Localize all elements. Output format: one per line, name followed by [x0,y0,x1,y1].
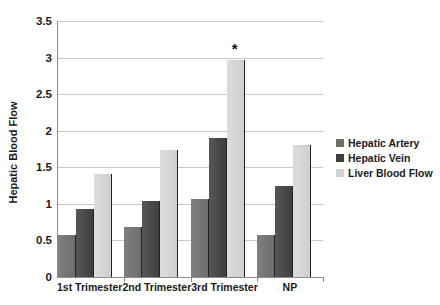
bar[interactable] [275,186,293,277]
bar-slot [58,21,76,277]
significance-asterisk: * [232,41,238,56]
bar[interactable] [124,227,142,277]
x-axis-tick-labels: 1st Trimester2nd Trimester3rd TrimesterN… [57,281,322,301]
legend-swatch-icon [336,154,344,162]
x-tick-mark [323,277,324,282]
bar[interactable]: * [227,60,245,277]
y-tick-label: 1 [14,198,52,210]
legend-swatch-icon [336,139,344,147]
bar-group [124,21,190,277]
y-tick-label: 3.5 [14,15,52,27]
bar-groups: * [58,21,323,277]
legend-item[interactable]: Hepatic Artery [336,136,440,150]
bar-slot [209,21,227,277]
bar-group [58,21,124,277]
y-tick-label: 2.5 [14,88,52,100]
y-tick-label: 0.5 [14,234,52,246]
x-tick-label: 1st Trimester [57,281,122,301]
bar-group: * [191,21,257,277]
bar-group [257,21,323,277]
bar-slot [160,21,178,277]
bar[interactable] [293,145,311,277]
legend-label: Hepatic Vein [348,152,410,164]
bar-slot [293,21,311,277]
plot-area: * [57,21,323,278]
bar[interactable] [257,235,275,277]
bar[interactable] [160,150,178,277]
bar-slot [124,21,142,277]
y-tick-label: 3 [14,52,52,64]
bar[interactable] [191,199,209,277]
bar[interactable] [209,138,227,277]
bar[interactable] [142,201,160,277]
bar[interactable] [58,235,76,277]
bar-slot [76,21,94,277]
bar-slot [257,21,275,277]
bar-slot [191,21,209,277]
bar-slot [275,21,293,277]
x-tick-label: 3rd Trimester [191,281,258,301]
legend: Hepatic ArteryHepatic VeinLiver Blood Fl… [336,136,440,181]
bar-slot [94,21,112,277]
legend-item[interactable]: Liver Blood Flow [336,166,440,180]
y-tick-label: 1.5 [14,161,52,173]
x-tick-label: NP [258,281,322,301]
bar[interactable] [76,209,94,277]
bar[interactable] [94,174,112,277]
y-tick-label: 2 [14,125,52,137]
legend-label: Liver Blood Flow [348,167,433,179]
bar-slot [142,21,160,277]
legend-swatch-icon [336,169,344,177]
bar-chart: Hepatic Blood Flow 00.511.522.533.5 * 1s… [0,0,440,305]
y-axis-tick-labels: 00.511.522.533.5 [14,0,52,305]
legend-label: Hepatic Artery [348,137,419,149]
x-tick-label: 2nd Trimester [122,281,191,301]
y-tick-label: 0 [14,271,52,283]
bar-slot: * [227,21,245,277]
legend-item[interactable]: Hepatic Vein [336,151,440,165]
